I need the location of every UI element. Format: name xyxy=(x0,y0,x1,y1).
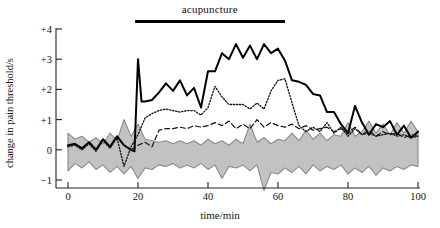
plot-canvas xyxy=(0,0,440,228)
pain-threshold-chart: acupuncture change in pain threshold/s t… xyxy=(0,0,440,228)
